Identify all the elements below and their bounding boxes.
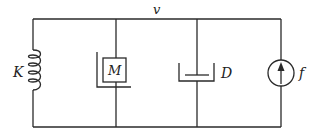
source-label: f bbox=[298, 65, 307, 81]
current-source-icon bbox=[268, 19, 294, 127]
spring-label: K bbox=[12, 64, 25, 80]
node-voltage-label: v bbox=[153, 2, 161, 17]
circuit-diagram: K M D f v bbox=[0, 0, 323, 139]
mass-label: M bbox=[107, 63, 122, 78]
wires bbox=[33, 19, 281, 127]
damper-label: D bbox=[220, 65, 232, 81]
damper-icon bbox=[179, 19, 214, 127]
inductor-icon bbox=[29, 50, 41, 90]
